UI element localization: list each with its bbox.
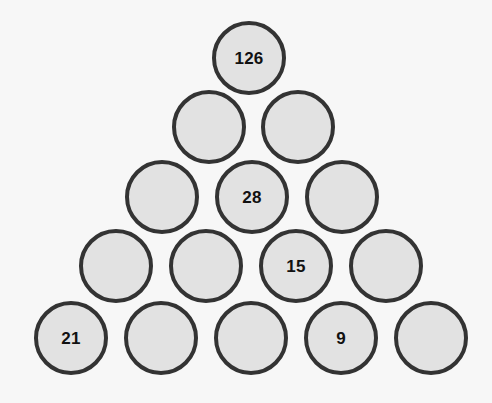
pyramid-circle-r5c2-empty[interactable] xyxy=(124,301,198,375)
pyramid-circle-r4c3-filled[interactable]: 15 xyxy=(259,229,333,303)
pyramid-circle-label: 28 xyxy=(242,189,261,206)
pyramid-circle-r5c5-empty[interactable] xyxy=(394,301,468,375)
pyramid-row-2 xyxy=(0,90,492,164)
pyramid-circle-r3c1-empty[interactable] xyxy=(125,160,199,234)
pyramid-circle-label: 126 xyxy=(235,50,264,67)
pyramid-row-4: 15 xyxy=(0,229,492,303)
pyramid-row-3: 28 xyxy=(0,160,492,234)
pyramid-circle-r5c1-filled[interactable]: 21 xyxy=(34,301,108,375)
pyramid-circle-r5c4-filled[interactable]: 9 xyxy=(304,301,378,375)
pyramid-circle-label: 21 xyxy=(61,330,80,347)
pyramid-row-5: 219 xyxy=(0,301,492,375)
pyramid-circle-r5c3-empty[interactable] xyxy=(214,301,288,375)
pyramid-circle-label: 9 xyxy=(336,330,346,347)
pyramid-row-1: 126 xyxy=(0,21,492,95)
pyramid-circle-r4c2-empty[interactable] xyxy=(169,229,243,303)
pyramid-circle-r4c1-empty[interactable] xyxy=(79,229,153,303)
pyramid-circle-r2c2-empty[interactable] xyxy=(261,90,335,164)
pyramid-circle-r3c3-empty[interactable] xyxy=(305,160,379,234)
pyramid-circle-label: 15 xyxy=(286,258,305,275)
number-pyramid-diagram: 1262815219 xyxy=(0,0,492,403)
pyramid-circle-r1c1-filled[interactable]: 126 xyxy=(212,21,286,95)
pyramid-circle-r4c4-empty[interactable] xyxy=(349,229,423,303)
pyramid-circle-r2c1-empty[interactable] xyxy=(172,90,246,164)
pyramid-circle-r3c2-filled[interactable]: 28 xyxy=(215,160,289,234)
